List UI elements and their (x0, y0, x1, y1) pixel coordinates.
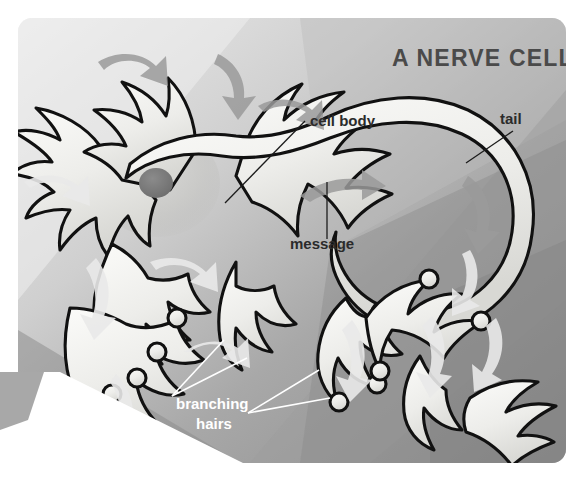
label-cell-body: cell body (310, 112, 376, 129)
nerve-cell-illustration: A NERVE CELL cell body tail message bran… (0, 0, 584, 491)
figure-title: A NERVE CELL (392, 45, 574, 71)
figure-stage: A NERVE CELL cell body tail message bran… (0, 0, 584, 491)
label-message: message (290, 235, 354, 252)
label-tail: tail (500, 110, 522, 127)
cell-nucleus (139, 168, 173, 198)
label-branching: branching (176, 395, 249, 412)
label-hairs: hairs (196, 415, 232, 432)
